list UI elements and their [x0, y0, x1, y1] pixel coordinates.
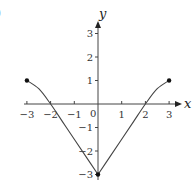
y-tick-label: 2	[87, 52, 93, 63]
x-tick-label: 3	[166, 109, 172, 120]
x-tick-label: 2	[142, 109, 148, 120]
x-tick-label: −1	[67, 109, 82, 120]
origin-label: 0	[90, 108, 96, 119]
y-tick-label: −2	[78, 146, 93, 157]
x-tick-label: −3	[20, 109, 35, 120]
y-tick-label: 1	[87, 75, 93, 86]
panel-label-fragment: )	[0, 5, 1, 20]
x-axis-label: x	[184, 96, 192, 111]
y-tick-label: 3	[87, 28, 93, 39]
y-axis-arrow-icon	[95, 21, 101, 28]
function-graph: ) −3−2−1123321−1−2−3 x y 0	[0, 0, 195, 190]
y-axis-label: y	[98, 6, 107, 21]
endpoint-dot	[96, 172, 100, 176]
x-tick-label: 1	[119, 109, 125, 120]
curve-right-branch	[98, 81, 169, 175]
y-tick-label: −1	[78, 122, 93, 133]
y-tick-label: −3	[78, 169, 93, 180]
x-axis-arrow-icon	[175, 101, 182, 107]
endpoint-dot	[167, 78, 171, 82]
endpoint-dot	[25, 78, 29, 82]
